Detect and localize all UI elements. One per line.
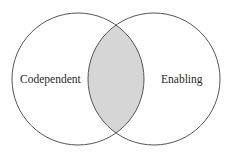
codependent-label: Codependent <box>20 73 81 86</box>
venn-diagram: Codependent Enabling <box>0 0 231 153</box>
enabling-label: Enabling <box>161 73 203 86</box>
